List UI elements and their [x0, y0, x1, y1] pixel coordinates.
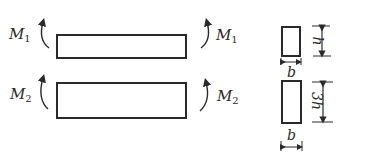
section-2-outline: [282, 81, 301, 123]
height-label: h: [310, 36, 326, 45]
beam-1-body: [57, 35, 186, 58]
beam-2-body: [57, 83, 186, 118]
section-1-outline: [282, 27, 300, 56]
right-moment-arrow-icon: [201, 22, 209, 48]
left-moment-label: M2: [9, 85, 32, 104]
right-moment-arrow-icon: [200, 82, 208, 111]
right-moment-label: M2: [216, 87, 239, 106]
beam-bending-diagram: M1 M1 M2 M2 h b 3h: [0, 0, 382, 153]
width-label: b: [287, 127, 296, 143]
right-moment-label: M1: [215, 26, 238, 45]
cross-section-2: 3h b: [281, 81, 333, 151]
beam-2: M2 M2: [9, 78, 239, 118]
height-label: 3h: [309, 92, 325, 110]
cross-section-1: h b: [281, 26, 331, 80]
beam-1: M1 M1: [8, 22, 238, 58]
left-moment-label: M1: [8, 25, 31, 44]
left-moment-arrow-icon: [41, 78, 48, 109]
width-label: b: [287, 64, 296, 80]
left-moment-arrow-icon: [41, 22, 49, 48]
